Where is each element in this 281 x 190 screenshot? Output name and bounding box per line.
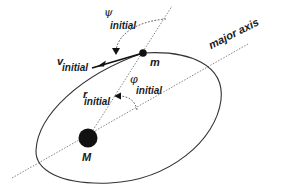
orbiting-mass-dot bbox=[139, 49, 147, 57]
phi-subscript: initial bbox=[136, 86, 162, 96]
central-mass-dot bbox=[79, 129, 98, 148]
major-axis-line bbox=[12, 44, 248, 178]
velocity-subscript: initial bbox=[62, 63, 88, 73]
central-mass-label: M bbox=[82, 152, 91, 163]
orbiting-mass-label: m bbox=[150, 57, 160, 68]
radius-subscript: initial bbox=[84, 97, 110, 107]
psi-label: ψ bbox=[104, 3, 113, 19]
psi-arrowhead-icon bbox=[112, 48, 120, 55]
psi-subscript: initial bbox=[110, 21, 136, 31]
phi-arrowhead-icon bbox=[114, 93, 121, 100]
phi-label: φ bbox=[130, 70, 138, 86]
